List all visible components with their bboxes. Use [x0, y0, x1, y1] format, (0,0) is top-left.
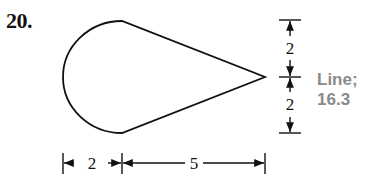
annotation-line-1: Line;	[317, 70, 358, 90]
vertical-lower-label: 2	[286, 95, 295, 114]
answer-annotation: Line; 16.3	[317, 70, 358, 110]
teardrop-outline	[63, 21, 265, 133]
horizontal-right-label: 5	[190, 154, 199, 173]
annotation-line-2: 16.3	[317, 90, 358, 110]
vertical-dimension	[279, 20, 301, 133]
horizontal-left-label: 2	[88, 154, 97, 173]
vertical-upper-label: 2	[286, 39, 295, 58]
